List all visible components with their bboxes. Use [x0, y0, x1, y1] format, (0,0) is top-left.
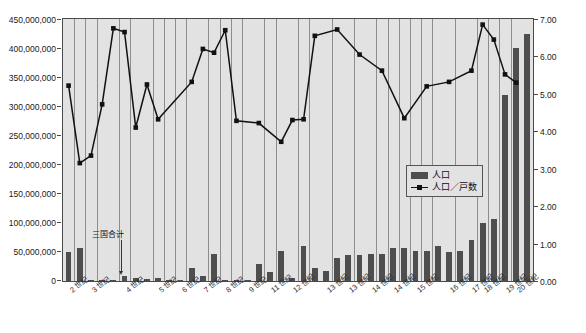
y2-axis-label-1: 1.00	[540, 240, 580, 250]
y-axis-label-450m: 450,000,000	[0, 15, 56, 25]
line-marker-square	[335, 27, 340, 32]
y2-tick	[534, 56, 538, 57]
y2-tick	[534, 94, 538, 95]
line-marker-square	[223, 28, 228, 33]
y-axis-label-50m: 50,000,000	[0, 247, 56, 257]
legend-item-per-household: 人口／戸数	[411, 181, 477, 193]
line-marker-square	[380, 68, 385, 73]
line-marker-square	[189, 80, 194, 85]
line-marker-square	[66, 83, 71, 88]
line-marker-square	[212, 50, 217, 55]
population-household-chart: 450,000,000 400,000,000 350,000,000 300,…	[0, 0, 586, 333]
y-tick	[57, 135, 61, 136]
legend-line-marker-icon	[411, 184, 428, 191]
y2-tick	[534, 19, 538, 20]
line-marker-square	[257, 121, 262, 126]
y-axis-label-400m: 400,000,000	[0, 44, 56, 54]
line-marker-square	[290, 118, 295, 123]
y-axis-label-250m: 250,000,000	[0, 131, 56, 141]
line-marker-square	[100, 102, 105, 107]
line-marker-square	[89, 153, 94, 158]
y-axis-label-100m: 100,000,000	[0, 218, 56, 228]
y2-tick	[534, 244, 538, 245]
line-marker-square	[133, 125, 138, 130]
y2-axis-label-5: 5.00	[540, 90, 580, 100]
y-axis-label-0: 0	[0, 276, 56, 286]
y2-axis-label-4: 4.00	[540, 127, 580, 137]
line-marker-square	[77, 161, 82, 166]
chart-legend: 人口 人口／戸数	[406, 165, 483, 197]
y-axis-label-350m: 350,000,000	[0, 73, 56, 83]
line-marker-square	[312, 34, 317, 39]
line-marker-square	[492, 37, 497, 42]
legend-label-population: 人口	[432, 169, 450, 181]
legend-bar-swatch-icon	[411, 172, 428, 179]
y2-axis-label-0: 0.00	[540, 277, 580, 287]
y2-tick	[534, 206, 538, 207]
y2-axis-label-2: 2.00	[540, 202, 580, 212]
annotation-three-kingdoms: 三国合计	[92, 228, 124, 239]
y-tick	[57, 19, 61, 20]
line-path-per-household	[69, 25, 517, 163]
line-marker-square	[357, 52, 362, 57]
y2-axis-label-6: 6.00	[540, 52, 580, 62]
annotation-arrow-icon	[119, 271, 123, 275]
line-marker-square	[201, 47, 206, 52]
y-axis-label-150m: 150,000,000	[0, 189, 56, 199]
line-marker-square	[447, 80, 452, 85]
line-marker-square	[234, 119, 239, 124]
y-axis-label-200m: 200,000,000	[0, 160, 56, 170]
line-marker-square	[122, 30, 127, 35]
y-axis-label-300m: 300,000,000	[0, 102, 56, 112]
line-marker-square	[514, 80, 519, 85]
legend-item-population: 人口	[411, 169, 477, 181]
line-marker-square	[145, 82, 150, 87]
line-marker-square	[156, 117, 161, 122]
line-marker-square	[424, 84, 429, 89]
y2-tick	[534, 131, 538, 132]
y-tick	[57, 164, 61, 165]
y2-tick	[534, 169, 538, 170]
legend-label-per-household: 人口／戸数	[432, 181, 477, 193]
line-marker-square	[469, 68, 474, 73]
y-tick	[57, 193, 61, 194]
y2-axis-label-7: 7.00	[540, 15, 580, 25]
y-tick	[57, 251, 61, 252]
line-marker-square	[480, 22, 485, 27]
y-tick	[57, 48, 61, 49]
plot-area	[62, 18, 534, 282]
line-marker-square	[402, 116, 407, 121]
line-marker-square	[503, 72, 508, 77]
line-series-layer	[63, 19, 533, 281]
y-tick	[57, 222, 61, 223]
line-marker-square	[279, 139, 284, 144]
y-tick	[57, 106, 61, 107]
y-tick	[57, 77, 61, 78]
line-marker-square	[301, 117, 306, 122]
y-tick	[57, 280, 61, 281]
y2-axis-label-3: 3.00	[540, 165, 580, 175]
annotation-leader-line	[121, 240, 122, 272]
line-marker-square	[111, 26, 116, 31]
